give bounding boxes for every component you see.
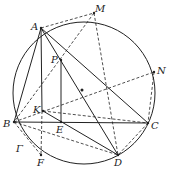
segment-MD <box>94 13 118 155</box>
point-B <box>13 121 15 123</box>
label-N: N <box>157 66 166 76</box>
segment-AC <box>41 28 148 123</box>
segment-AK <box>41 28 42 111</box>
label-P: P <box>51 55 58 65</box>
solid-lines <box>14 28 148 155</box>
segment-KC <box>43 111 148 123</box>
diagram-canvas <box>0 0 169 181</box>
point-F <box>40 154 42 156</box>
label-gamma: Γ <box>16 144 23 154</box>
center-dot <box>81 89 84 92</box>
segment-BC <box>14 122 148 123</box>
point-E <box>60 121 62 123</box>
segment-MB <box>14 13 94 122</box>
label-E: E <box>56 125 63 135</box>
circle-gamma <box>13 22 155 164</box>
label-M: M <box>95 4 105 14</box>
label-C: C <box>151 121 159 131</box>
label-B: B <box>3 119 10 129</box>
label-D: D <box>114 158 122 168</box>
point-N <box>153 71 155 73</box>
segment-KF <box>41 111 42 155</box>
point-P <box>60 59 62 61</box>
point-K <box>42 110 44 112</box>
segment-KD <box>43 111 118 155</box>
geometry-diagram: A M P N K B E C D F Γ <box>0 0 169 181</box>
point-A <box>40 27 42 29</box>
segment-AD <box>41 28 118 155</box>
point-D <box>117 154 119 156</box>
segment-AM <box>41 13 94 28</box>
label-K: K <box>33 105 40 115</box>
dashed-lines <box>14 13 154 155</box>
segment-CD <box>118 123 148 155</box>
label-A: A <box>31 22 38 32</box>
label-F: F <box>37 158 44 168</box>
point-C <box>147 122 149 124</box>
